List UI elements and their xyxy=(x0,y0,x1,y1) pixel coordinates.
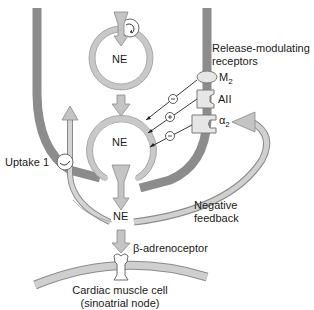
receptor-m2-label: M2 xyxy=(219,71,233,86)
receptor-alpha2 xyxy=(192,115,216,133)
receptor-aii-label: AII xyxy=(218,93,231,106)
release-modulating-label-line1: Release-modulating xyxy=(212,42,310,55)
uptake-label: Uptake 1 xyxy=(5,156,49,169)
vesicle-bottom-label: NE xyxy=(112,136,127,149)
ne-release-arrow xyxy=(112,165,130,210)
release-modulating-label-line2: receptors xyxy=(212,55,258,68)
negative-feedback-label-line1: Negative xyxy=(194,199,237,212)
uptake-transporter-icon xyxy=(57,154,73,170)
receptor-m2 xyxy=(197,71,217,83)
vesicle-top xyxy=(89,12,153,90)
cell-label-line1: Cardiac muscle cell xyxy=(60,284,180,297)
ne-binding-arrow xyxy=(112,230,130,253)
vesicle-fusing xyxy=(87,115,157,210)
beta-adrenoceptor-label: β-adrenoceptor xyxy=(133,242,208,255)
receptor-alpha2-label: α2 xyxy=(219,114,230,129)
vesicle-top-label: NE xyxy=(112,53,127,66)
vesicle-transport-arrow xyxy=(112,95,130,116)
negative-feedback-label-line2: feedback xyxy=(194,212,239,225)
synaptic-ne-label: NE xyxy=(112,210,129,223)
cell-label-line2: (sinoatrial node) xyxy=(60,297,180,310)
